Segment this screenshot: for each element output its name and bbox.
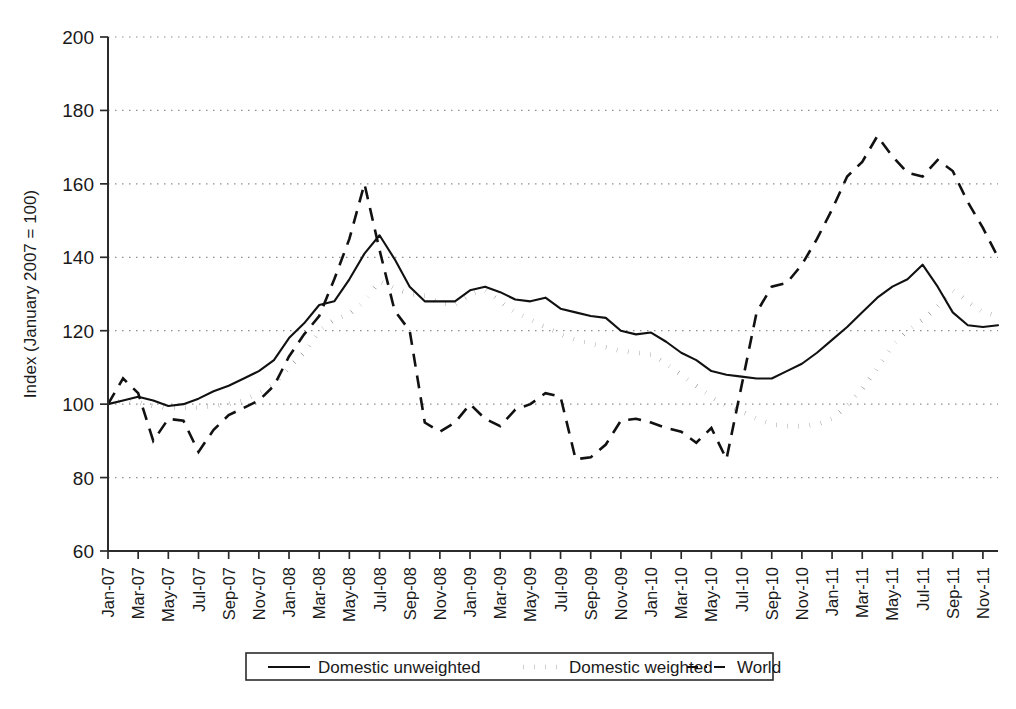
x-tick-label-Jan-08: Jan-08 [280,567,298,617]
x-tick-label-Jan-09: Jan-09 [461,567,479,617]
x-tick-label-Jan-07: Jan-07 [99,567,117,617]
x-tick-label-Mar-09: Mar-09 [491,567,509,619]
x-tick-label-May-07: May-07 [159,567,177,622]
x-tick-label-Jan-11: Jan-11 [823,567,841,616]
x-tick-label-Nov-11: Nov-11 [974,567,992,619]
x-tick-marks [108,551,983,559]
x-tick-label-Mar-07: Mar-07 [129,567,147,619]
y-tick-label-120: 120 [62,321,94,342]
y-tick-label-160: 160 [62,174,94,195]
x-tick-label-Nov-07: Nov-07 [250,567,268,620]
x-tick-label-Mar-11: Mar-11 [853,567,871,618]
x-tick-label-Jul-11: Jul-11 [914,567,932,611]
x-tick-label-Mar-08: Mar-08 [310,567,328,619]
chart-legend: Domestic unweighted Domestic weighted Wo… [246,653,781,680]
y-tick-label-60: 60 [73,541,94,562]
x-tick-label-May-09: May-09 [521,567,539,622]
y-tick-label-100: 100 [62,394,94,415]
y-axis-title-group: Index (January 2007 = 100) [21,190,40,398]
x-tick-label-Sep-11: Sep-11 [944,567,962,619]
y-tick-label-140: 140 [62,247,94,268]
x-tick-label-Jul-10: Jul-10 [733,567,751,612]
x-tick-label-Jul-08: Jul-08 [371,567,389,612]
x-tick-label-Sep-08: Sep-08 [401,567,419,620]
series-line-world [108,136,998,459]
x-tick-label-Nov-08: Nov-08 [431,567,449,620]
x-tick-label-Jan-10: Jan-10 [642,567,660,617]
x-tick-label-Sep-09: Sep-09 [582,567,600,620]
y-tick-label-80: 80 [73,468,94,489]
y-tick-marks [100,37,108,551]
x-tick-label-May-08: May-08 [340,567,358,622]
x-tick-label-May-10: May-10 [702,567,720,622]
chart-figure: 6080100120140160180200 Jan-07Mar-07May-0… [0,0,1016,709]
plot-series-group [108,136,998,459]
x-tick-label-Sep-07: Sep-07 [220,567,238,620]
x-tick-label-Sep-10: Sep-10 [763,567,781,620]
chart-svg: 6080100120140160180200 Jan-07Mar-07May-0… [0,0,1016,709]
x-tick-label-Mar-10: Mar-10 [672,567,690,619]
x-tick-label-Nov-10: Nov-10 [793,567,811,620]
y-tick-label-180: 180 [62,100,94,121]
y-axis-title: Index (January 2007 = 100) [21,190,40,398]
x-tick-label-Nov-09: Nov-09 [612,567,630,620]
x-tick-labels: Jan-07Mar-07May-07Jul-07Sep-07Nov-07Jan-… [99,567,992,622]
legend-label-world: World [737,658,781,677]
gridlines-group [108,37,998,478]
series-line-domestic-unweighted [108,235,998,406]
y-tick-labels: 6080100120140160180200 [62,27,94,562]
x-tick-label-Jul-07: Jul-07 [190,567,208,612]
axes-group [108,37,998,551]
y-tick-label-200: 200 [62,27,94,48]
x-tick-label-Jul-09: Jul-09 [552,567,570,612]
legend-label-domestic-unweighted: Domestic unweighted [318,658,481,677]
x-tick-label-May-11: May-11 [883,567,901,621]
